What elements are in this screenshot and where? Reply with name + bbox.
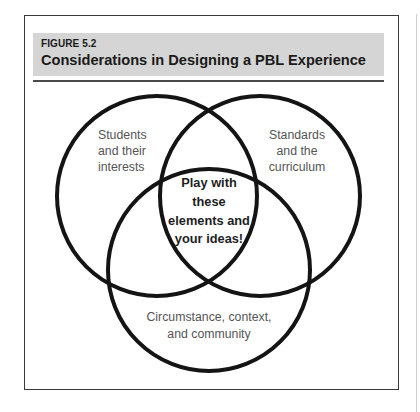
label-line: and the [257,143,337,159]
label-line: Standards [257,127,337,143]
center-line: your ideas! [149,230,269,249]
venn-label-standards: Standards and the curriculum [257,127,337,175]
label-line: and community [139,326,279,343]
center-line: Play with [149,174,269,193]
label-line: curriculum [257,159,337,175]
center-line: elements and [149,212,269,231]
venn-center-label: Play with these elements and your ideas! [149,174,269,249]
label-line: Students [98,127,147,143]
venn-label-circumstance: Circumstance, context, and community [139,309,279,343]
venn-label-students: Students and their interests [98,127,147,175]
label-line: interests [98,159,147,175]
label-line: and their [98,143,147,159]
label-line: Circumstance, context, [139,309,279,326]
center-line: these [149,193,269,212]
